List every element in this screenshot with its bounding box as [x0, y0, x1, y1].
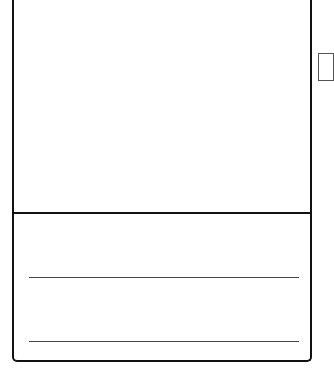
card — [12, 0, 312, 362]
card-footer — [14, 214, 310, 360]
text-line-2 — [29, 341, 299, 342]
side-box-edge[interactable] — [318, 53, 334, 81]
card-media-area — [14, 0, 310, 214]
text-line-1 — [29, 277, 299, 278]
